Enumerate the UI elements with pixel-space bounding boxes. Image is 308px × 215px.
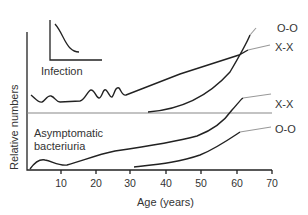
x-tick: 30 — [124, 177, 136, 189]
x-tick: 60 — [231, 177, 243, 189]
chart-plot — [0, 0, 308, 215]
legend-bottom-xx: X-X — [275, 99, 293, 110]
x-tick: 70 — [266, 177, 278, 189]
y-axis-label: Relative numbers — [8, 84, 20, 170]
inset-label: Infection — [41, 66, 83, 77]
legend-top-xx: X-X — [275, 42, 293, 53]
legend-top-oo: O-O — [277, 23, 298, 34]
x-tick: 40 — [160, 177, 172, 189]
axes — [27, 32, 272, 174]
bacteriuria-label-line2: bacteriuria — [34, 141, 85, 152]
bacteriuria-label-line1: Asymptomatic — [34, 128, 103, 139]
x-tick: 10 — [55, 177, 67, 189]
x-tick: 20 — [90, 177, 102, 189]
bacteriuria-oo-curve — [134, 132, 240, 167]
x-tick: 50 — [195, 177, 207, 189]
inset-chart — [50, 20, 102, 60]
legend-bottom-oo: O-O — [275, 124, 296, 135]
x-axis-label: Age (years) — [137, 197, 194, 208]
infection-oo-curve — [148, 35, 250, 112]
